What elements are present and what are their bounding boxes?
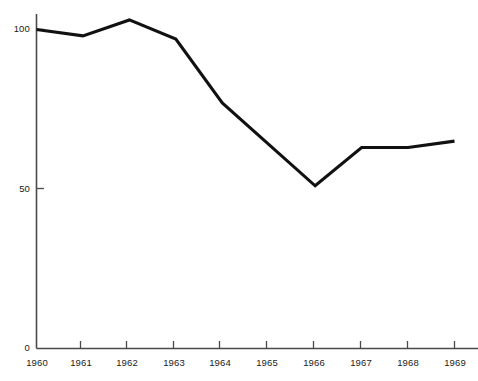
- x-axis-label-1960: 1960: [26, 358, 48, 368]
- data-series-line: [37, 20, 455, 186]
- y-tick-marks: [37, 30, 45, 189]
- x-axis-label-1967: 1967: [350, 358, 372, 368]
- x-axis-label-1961: 1961: [70, 358, 92, 368]
- y-axis-label-0: 0: [8, 343, 30, 353]
- x-axis-label-1969: 1969: [444, 358, 466, 368]
- line-chart: 100 50 0 1960 1961 1962 1963 1964 1965 1…: [0, 0, 478, 381]
- x-axis-label-1964: 1964: [209, 358, 231, 368]
- y-axis-label-50: 50: [8, 184, 30, 194]
- y-axis-label-100: 100: [8, 24, 30, 34]
- x-axis-label-1962: 1962: [116, 358, 138, 368]
- x-axis-label-1968: 1968: [397, 358, 419, 368]
- x-axis-label-1963: 1963: [163, 358, 185, 368]
- chart-plot-area: [0, 0, 478, 381]
- x-tick-marks: [81, 341, 455, 349]
- x-axis-label-1965: 1965: [256, 358, 278, 368]
- x-axis-label-1966: 1966: [303, 358, 325, 368]
